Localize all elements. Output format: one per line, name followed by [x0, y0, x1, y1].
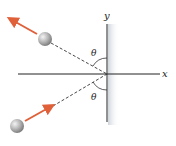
incident-angle-label: θ: [91, 92, 97, 102]
reflected-angle-label: θ: [91, 48, 97, 58]
incoming-ball: [10, 119, 24, 133]
reflection-diagram: y x θ θ: [0, 0, 176, 146]
incident-path-dashed: [53, 74, 107, 106]
reflected-path-dashed: [51, 43, 107, 74]
reflected-angle-arc: [93, 58, 107, 66]
outgoing-velocity-arrow: [12, 20, 37, 34]
incoming-velocity-arrow: [25, 107, 50, 121]
incident-angle-arc: [93, 82, 107, 90]
outgoing-ball: [38, 32, 52, 46]
x-axis-label: x: [162, 68, 168, 79]
y-axis-label: y: [103, 10, 110, 21]
